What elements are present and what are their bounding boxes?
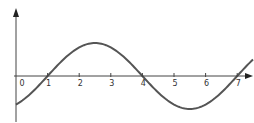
y-axis-arrow-icon — [13, 8, 19, 17]
x-tick-label: 6 — [204, 79, 209, 88]
x-tick-label: 0 — [19, 79, 24, 88]
x-tick-label: 2 — [78, 79, 83, 88]
sine-chart: 01234567 — [0, 0, 254, 123]
x-tick-label: 7 — [236, 79, 241, 88]
x-tick-label: 1 — [46, 79, 51, 88]
x-axis-arrow-icon — [245, 73, 253, 79]
x-tick-label: 3 — [109, 79, 114, 88]
x-tick-labels: 01234567 — [19, 79, 240, 88]
x-tick-label: 4 — [141, 79, 146, 88]
x-tick-label: 5 — [172, 79, 177, 88]
